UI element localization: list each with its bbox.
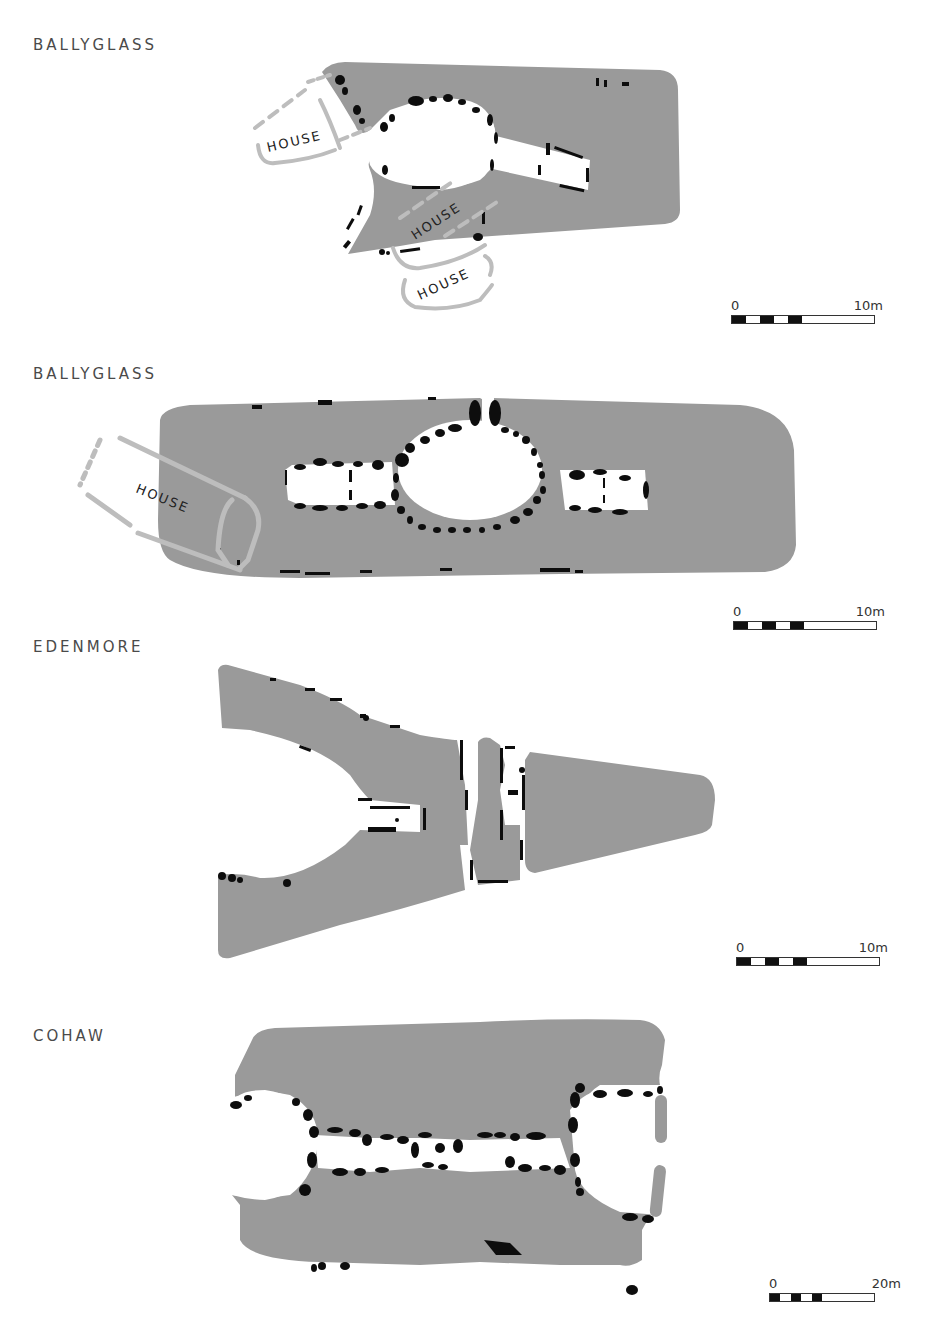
site-plans-drawing: HOUSE HOUSE HOUSE xyxy=(0,0,925,1324)
site-label-ballyglass-2: BALLYGLASS xyxy=(33,365,157,383)
scale-start-label: 0 xyxy=(769,1276,777,1291)
cairn-west xyxy=(218,665,468,958)
scale-bar-3: 0 10m xyxy=(736,940,886,970)
cairn-middle xyxy=(470,738,520,886)
site-label-edenmore: EDENMORE xyxy=(33,638,143,656)
court xyxy=(369,100,496,188)
scale-bar-graphic xyxy=(733,621,877,630)
scale-end-label: 10m xyxy=(856,604,885,619)
annotation-house-3: HOUSE xyxy=(415,265,472,302)
scale-start-label: 0 xyxy=(736,940,744,955)
scale-end-label: 10m xyxy=(854,298,883,313)
annotation-house-1: HOUSE xyxy=(265,128,323,155)
scale-start-label: 0 xyxy=(733,604,741,619)
plan-ballyglass-2: HOUSE xyxy=(80,395,796,578)
scale-bar-2: 0 10m xyxy=(733,604,883,634)
scale-start-label: 0 xyxy=(731,298,739,313)
plan-cohaw xyxy=(230,1019,667,1295)
cairn-east xyxy=(525,752,715,873)
scale-end-label: 20m xyxy=(872,1276,901,1291)
scale-bar-graphic xyxy=(731,315,875,324)
plan-ballyglass-1: HOUSE HOUSE HOUSE xyxy=(255,62,680,308)
scale-bar-1: 0 10m xyxy=(731,298,881,328)
plan-edenmore xyxy=(218,665,715,958)
site-label-cohaw: COHAW xyxy=(33,1027,106,1045)
scale-end-label: 10m xyxy=(859,940,888,955)
scale-bar-4: 0 20m xyxy=(769,1276,901,1306)
scale-bar-graphic xyxy=(769,1293,875,1302)
court xyxy=(398,420,542,520)
scale-bar-graphic xyxy=(736,957,880,966)
